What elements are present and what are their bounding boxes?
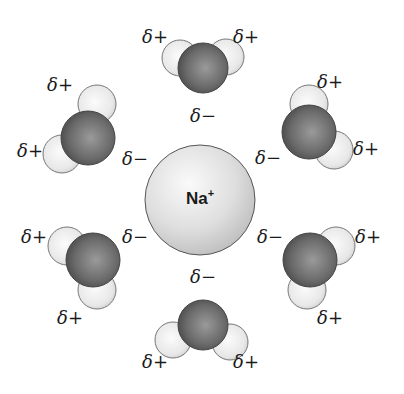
partial-negative-label: δ− <box>255 149 281 167</box>
water-molecule-upper-left <box>43 85 116 173</box>
oxygen-atom <box>282 105 336 159</box>
partial-positive-label: δ+ <box>142 28 168 46</box>
partial-positive-label: δ+ <box>21 228 47 246</box>
ion-charge: + <box>208 187 214 199</box>
water-molecule-upper-right <box>282 85 353 169</box>
partial-positive-label: δ+ <box>355 228 381 246</box>
partial-negative-label: δ− <box>190 107 216 125</box>
partial-positive-label: δ+ <box>17 142 43 160</box>
oxygen-atom <box>283 233 337 287</box>
partial-positive-label: δ+ <box>47 76 73 94</box>
partial-positive-label: δ+ <box>57 309 83 327</box>
ion-symbol: Na <box>186 189 208 208</box>
partial-positive-label: δ+ <box>317 309 343 327</box>
oxygen-atom <box>66 233 120 287</box>
oxygen-atom <box>61 111 115 165</box>
hydration-diagram: Na+ δ+δ+δ−δ+δ+δ−δ+δ−δ+δ+δ−δ+δ−δ+δ+δ−δ+δ+ <box>0 0 404 394</box>
partial-positive-label: δ+ <box>233 353 259 371</box>
partial-positive-label: δ+ <box>142 353 168 371</box>
oxygen-atom <box>178 300 228 350</box>
sodium-ion-label: Na+ <box>186 187 214 209</box>
water-molecule-lower-left <box>48 227 120 309</box>
partial-positive-label: δ+ <box>233 28 259 46</box>
partial-negative-label: δ− <box>190 268 216 286</box>
oxygen-atom <box>178 43 228 93</box>
partial-positive-label: δ+ <box>353 140 379 158</box>
partial-negative-label: δ− <box>257 228 283 246</box>
partial-negative-label: δ− <box>122 228 148 246</box>
partial-positive-label: δ+ <box>317 73 343 91</box>
partial-negative-label: δ− <box>122 150 148 168</box>
water-molecule-lower-right <box>283 227 355 309</box>
water-molecule-top <box>162 39 244 93</box>
